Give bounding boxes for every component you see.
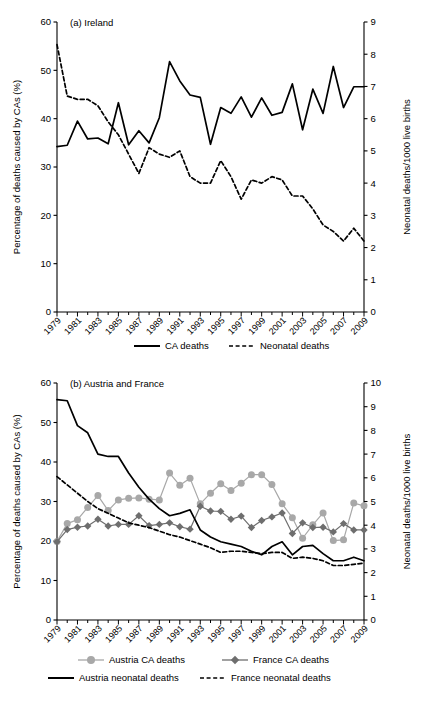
series-marker xyxy=(187,475,194,482)
legend-label: CA deaths xyxy=(165,340,209,351)
x-axis-tick-label: 1985 xyxy=(103,623,124,644)
series-marker xyxy=(319,523,326,530)
legend-label: France CA deaths xyxy=(253,654,329,665)
y-axis-tick-label: 10 xyxy=(40,258,51,269)
series-marker xyxy=(84,504,91,511)
series-marker xyxy=(238,480,245,487)
x-axis-tick-label: 1979 xyxy=(42,315,63,336)
y-axis-tick-label: 0 xyxy=(46,614,51,625)
series-marker xyxy=(227,487,234,494)
legend-label: France neonatal deaths xyxy=(231,672,331,683)
y2-axis-tick-label: 2 xyxy=(371,242,376,253)
y2-axis-tick-label: 5 xyxy=(371,145,376,156)
y-axis-tick-label: 40 xyxy=(40,456,51,467)
x-axis-tick-label: 1993 xyxy=(185,623,206,644)
series-marker xyxy=(176,523,183,530)
y-axis-tick-label: 50 xyxy=(40,417,51,428)
y-axis-title: Percentage of deaths caused by CAs (%) xyxy=(11,414,22,588)
series-marker xyxy=(176,482,183,489)
chart-panel-ireland: 0102030405060012345678919791981198319851… xyxy=(0,0,430,358)
series-marker xyxy=(350,526,357,533)
y2-axis-tick-label: 0 xyxy=(371,614,376,625)
series-marker xyxy=(74,523,81,530)
series-marker xyxy=(94,492,101,499)
x-axis-tick-label: 2007 xyxy=(328,623,349,644)
y-axis-tick-label: 50 xyxy=(40,65,51,76)
y2-axis-tick-label: 3 xyxy=(371,543,376,554)
series-marker xyxy=(135,494,142,501)
y2-axis-tick-label: 6 xyxy=(371,113,376,124)
y2-axis-tick-label: 4 xyxy=(371,520,376,531)
x-axis-tick-label: 1991 xyxy=(164,315,185,336)
plot-area-austria-france: 0102030405060012345678910197919811983198… xyxy=(0,358,430,702)
x-axis-tick-label: 1995 xyxy=(205,315,226,336)
series-marker xyxy=(350,500,357,507)
y2-axis-tick-label: 3 xyxy=(371,210,376,221)
series-marker xyxy=(278,509,285,516)
legend-group: Austria CA deathsFrance CA deathsAustria… xyxy=(48,654,331,683)
series-marker xyxy=(217,480,224,487)
series-marker xyxy=(299,535,306,542)
y2-axis-tick-label: 5 xyxy=(371,496,376,507)
x-axis-tick-label: 1987 xyxy=(124,623,145,644)
x-axis-tick-label: 1989 xyxy=(144,315,165,336)
series-line xyxy=(57,62,364,147)
ireland-chart-svg: 0102030405060012345678919791981198319851… xyxy=(0,0,430,358)
series-marker xyxy=(268,481,275,488)
series-marker xyxy=(248,471,255,478)
x-axis-tick-label: 1983 xyxy=(83,315,104,336)
series-marker xyxy=(156,496,163,503)
panel-title: (a) Ireland xyxy=(70,17,113,28)
y-axis-tick-label: 60 xyxy=(40,377,51,388)
y2-axis-tick-label: 6 xyxy=(371,472,376,483)
series-marker xyxy=(156,521,163,528)
x-axis-tick-label: 2003 xyxy=(287,623,308,644)
series-marker xyxy=(166,470,173,477)
x-axis-tick-label: 1999 xyxy=(246,315,267,336)
series-marker xyxy=(330,537,337,544)
y-axis-tick-label: 10 xyxy=(40,575,51,586)
y2-axis-title: Neonatal deaths/1000 live births xyxy=(401,99,412,235)
y2-axis-tick-label: 8 xyxy=(371,425,376,436)
plot-area-ireland: 0102030405060012345678919791981198319851… xyxy=(0,0,430,358)
y-axis-tick-label: 30 xyxy=(40,496,51,507)
y-axis-title: Percentage of deaths caused by CAs (%) xyxy=(11,80,22,254)
x-axis-tick-label: 1985 xyxy=(103,315,124,336)
data-series-group xyxy=(53,400,367,566)
y-axis-tick-label: 0 xyxy=(46,306,51,317)
x-axis-tick-label: 2003 xyxy=(287,315,308,336)
austria-france-chart-svg: 0102030405060012345678910197919811983198… xyxy=(0,358,430,702)
data-series-group xyxy=(57,45,364,242)
series-marker xyxy=(166,519,173,526)
legend-label: Austria neonatal deaths xyxy=(79,672,179,683)
y-axis-tick-label: 30 xyxy=(40,161,51,172)
x-axis-tick-label: 1999 xyxy=(246,623,267,644)
x-axis-tick-label: 1979 xyxy=(42,623,63,644)
series-marker xyxy=(186,525,193,532)
y-axis-tick-label: 40 xyxy=(40,113,51,124)
x-axis-tick-label: 2001 xyxy=(267,315,288,336)
series-marker xyxy=(207,490,214,497)
y2-axis-tick-label: 1 xyxy=(371,274,376,285)
x-axis-tick-label: 1995 xyxy=(205,623,226,644)
series-marker xyxy=(115,496,122,503)
axes-group: 0102030405060012345678919791981198319851… xyxy=(40,16,375,336)
series-marker xyxy=(207,507,214,514)
y2-axis-tick-label: 7 xyxy=(371,81,376,92)
x-axis-tick-label: 1983 xyxy=(83,623,104,644)
x-axis-tick-label: 1981 xyxy=(62,623,83,644)
y2-axis-tick-label: 0 xyxy=(371,306,376,317)
legend-label: Austria CA deaths xyxy=(109,654,185,665)
series-marker xyxy=(115,521,122,528)
x-axis-tick-label: 2005 xyxy=(308,315,329,336)
series-line xyxy=(57,473,364,541)
series-marker xyxy=(268,513,275,520)
x-axis-tick-label: 1987 xyxy=(124,315,145,336)
y2-axis-tick-label: 10 xyxy=(371,377,382,388)
series-marker xyxy=(258,517,265,524)
y2-axis-tick-label: 2 xyxy=(371,567,376,578)
x-axis-tick-label: 2009 xyxy=(349,623,370,644)
series-marker xyxy=(258,471,265,478)
series-marker xyxy=(279,500,286,507)
x-axis-tick-label: 1993 xyxy=(185,315,206,336)
